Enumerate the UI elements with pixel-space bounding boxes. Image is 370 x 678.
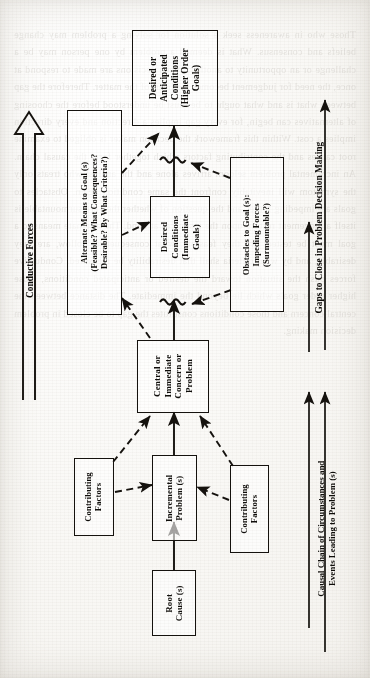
scanned-page: Those who in awareness seek a solution f… — [0, 0, 370, 678]
node-alternate-means-label: Alternate Means to Goal (s) (Feasible? W… — [80, 154, 109, 272]
node-contributing-factors-left[interactable]: Contributing Factors — [74, 458, 114, 536]
node-contributing-factors-right[interactable]: Contributing Factors — [230, 465, 269, 553]
node-higher-order-goals-label: Desired or Anticipated Conditions (Highe… — [148, 48, 202, 107]
axis-label-gaps-to-close: Gaps to Close in Problem Decision Making — [314, 113, 325, 343]
node-root-cause-label: Root Cause (s) — [164, 585, 185, 621]
barrier-squiggle-upper — [160, 157, 186, 162]
node-immediate-goals-label: Desired Conditions (Immediate Goals) — [159, 214, 201, 260]
axis-label-conductive-forces: Conductive Forces — [25, 201, 36, 321]
node-root-cause[interactable]: Root Cause (s) — [152, 570, 196, 636]
node-central-problem[interactable]: Central or Immediate Concern or Problem — [137, 340, 209, 413]
node-alternate-means[interactable]: Alternate Means to Goal (s) (Feasible? W… — [67, 110, 122, 315]
node-central-problem-label: Central or Immediate Concern or Problem — [152, 354, 194, 399]
node-contributing-factors-right-label: Contributing Factors — [240, 484, 260, 533]
node-obstacles-to-goal[interactable]: Obstacles to Goal (s): Impeding Forces (… — [230, 157, 284, 312]
node-higher-order-goals[interactable]: Desired or Anticipated Conditions (Highe… — [132, 30, 218, 126]
node-immediate-goals[interactable]: Desired Conditions (Immediate Goals) — [150, 196, 210, 278]
node-contributing-factors-left-label: Contributing Factors — [84, 472, 104, 521]
node-obstacles-to-goal-label: Obstacles to Goal (s): Impeding Forces (… — [242, 194, 272, 275]
node-incremental-problem-label: Incremental Problem (s) — [164, 474, 185, 521]
node-incremental-problem[interactable]: Incremental Problem (s) — [152, 455, 197, 541]
axis-label-causal-chain: Causal Chain of Circumstances and Events… — [316, 424, 337, 634]
barrier-squiggle-lower — [160, 299, 186, 304]
